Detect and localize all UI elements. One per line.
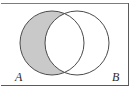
set-label-b: B <box>112 71 119 83</box>
set-label-a: A <box>15 71 22 83</box>
venn-diagram-figure: A B <box>0 0 135 91</box>
